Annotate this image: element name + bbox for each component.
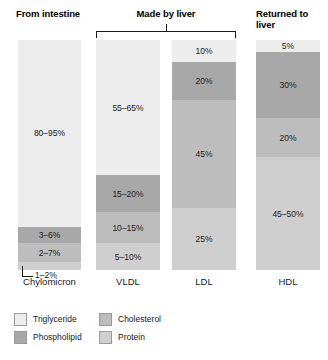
- legend-label-phospholipid: Phospholipid: [33, 332, 82, 342]
- bar-segment-label: 20%: [279, 133, 296, 143]
- legend-label-protein: Protein: [118, 332, 145, 342]
- bar-segment-chylomicron-triglyceride: 80–95%: [18, 40, 81, 227]
- legend: Triglyceride Cholesterol Phospholipid Pr…: [14, 310, 314, 346]
- chylomicron-protein-callout: 1–2%: [22, 266, 84, 282]
- bar-column-label-vldl: VLDL: [96, 276, 160, 288]
- bar-segment-ldl-cholesterol: 45%: [172, 100, 236, 208]
- bar-segment-label: 2–7%: [39, 248, 61, 258]
- bar-segment-label: 3–6%: [39, 230, 61, 240]
- bar-column-hdl: 5%30%20%45–50%: [256, 40, 320, 270]
- bar-segment-vldl-phospholipid: 15–20%: [96, 175, 160, 212]
- bar-segment-chylomicron-cholesterol: 2–7%: [18, 243, 81, 262]
- bar-segment-label: 5%: [282, 41, 294, 51]
- bracket-right-tick: [235, 31, 236, 38]
- bar-segment-label: 25%: [195, 234, 212, 244]
- bar-segment-label: 10–15%: [112, 223, 143, 233]
- bar-segment-label: 80–95%: [34, 128, 65, 138]
- bar-segment-ldl-protein: 25%: [172, 208, 236, 270]
- bar-column-vldl: 55–65%15–20%10–15%5–10%: [96, 40, 160, 270]
- legend-swatch-phospholipid: [14, 331, 27, 344]
- legend-item-protein: Protein: [99, 331, 145, 344]
- legend-row: Triglyceride Cholesterol: [14, 310, 314, 328]
- bar-column-label-hdl: HDL: [256, 276, 320, 288]
- bar-segment-vldl-cholesterol: 10–15%: [96, 212, 160, 243]
- bar-segment-label: 45–50%: [272, 209, 303, 219]
- legend-swatch-protein: [99, 331, 112, 344]
- bar-column-label-ldl: LDL: [172, 276, 236, 288]
- group-label-made-by-liver: Made by liver: [96, 8, 236, 19]
- legend-swatch-triglyceride: [14, 313, 27, 326]
- bar-segment-label: 20%: [195, 76, 212, 86]
- bar-segment-chylomicron-phospholipid: 3–6%: [18, 227, 81, 243]
- callout-horizontal-line: [22, 276, 33, 277]
- bar-segment-ldl-triglyceride: 10%: [172, 40, 236, 62]
- bar-column-ldl: 10%20%45%25%: [172, 40, 236, 270]
- bar-segment-vldl-triglyceride: 55–65%: [96, 40, 160, 175]
- bar-segment-hdl-triglyceride: 5%: [256, 40, 320, 52]
- bar-segment-hdl-phospholipid: 30%: [256, 52, 320, 118]
- group-label-from-intestine: From intestine: [16, 8, 108, 19]
- bar-segment-hdl-protein: 45–50%: [256, 157, 320, 270]
- bracket-top: [96, 31, 236, 32]
- bar-segment-label: 30%: [279, 80, 296, 90]
- legend-item-cholesterol: Cholesterol: [99, 313, 161, 326]
- made-by-liver-bracket: [96, 24, 236, 38]
- group-label-returned-to-liver: Returned to liver: [256, 8, 326, 30]
- bar-segment-ldl-phospholipid: 20%: [172, 62, 236, 100]
- legend-label-triglyceride: Triglyceride: [33, 314, 77, 324]
- bar-segment-label: 10%: [195, 46, 212, 56]
- legend-item-triglyceride: Triglyceride: [14, 313, 99, 326]
- legend-row: Phospholipid Protein: [14, 328, 314, 346]
- lipoprotein-composition-chart: From intestine Made by liver Returned to…: [0, 0, 328, 360]
- bar-segment-vldl-protein: 5–10%: [96, 243, 160, 270]
- bar-segment-label: 15–20%: [112, 189, 143, 199]
- bar-column-chylomicron: 80–95%3–6%2–7%: [18, 40, 81, 270]
- bar-segment-hdl-cholesterol: 20%: [256, 118, 320, 157]
- bar-segment-label: 55–65%: [112, 103, 143, 113]
- bracket-left-tick: [96, 31, 97, 38]
- legend-swatch-cholesterol: [99, 313, 112, 326]
- legend-item-phospholipid: Phospholipid: [14, 331, 99, 344]
- callout-label: 1–2%: [35, 270, 57, 281]
- bar-segment-label: 45%: [195, 149, 212, 159]
- bar-segment-label: 5–10%: [115, 252, 141, 262]
- legend-label-cholesterol: Cholesterol: [118, 314, 161, 324]
